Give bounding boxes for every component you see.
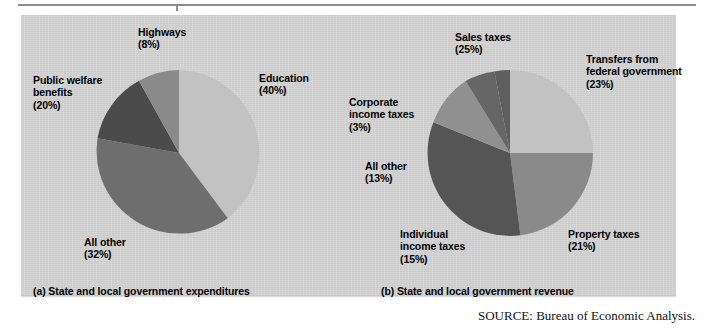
label-property-taxes-pct: (21%) (568, 240, 596, 252)
label-public-welfare-line1: Public welfare (33, 74, 102, 86)
label-transfers-line1: Transfers from (586, 53, 658, 65)
label-all-other-b-pct: (13%) (365, 172, 393, 184)
label-individual-line2: income taxes (400, 240, 465, 252)
label-all-other-b: All other(13%) (365, 160, 407, 185)
label-education: Education(40%) (259, 72, 309, 97)
label-property-taxes-name: Property taxes (568, 228, 640, 240)
label-all-other-b-name: All other (365, 160, 407, 172)
label-individual-income-taxes: Individualincome taxes(15%) (400, 228, 465, 265)
label-education-pct: (40%) (259, 84, 287, 96)
label-highways: Highways(8%) (138, 26, 186, 51)
source-line: SOURCE: Bureau of Economic Analysis. (478, 308, 695, 324)
label-sales-taxes: Sales taxes(25%) (455, 31, 511, 56)
label-all-other-a: All other(32%) (84, 236, 126, 261)
label-transfers-federal: Transfers fromfederal government(23%) (586, 53, 682, 90)
label-corporate-line1: Corporate (349, 96, 398, 108)
label-all-other-a-pct: (32%) (84, 248, 112, 260)
label-highways-pct: (8%) (138, 38, 160, 50)
source-text: Bureau of Economic Analysis. (533, 308, 695, 323)
caption-chart-b: (b) State and local government revenue (381, 285, 574, 297)
figure-root: Highways(8%) Public welfarebenefits(20%)… (0, 0, 711, 332)
label-public-welfare-line2: benefits (33, 86, 72, 98)
label-individual-line1: Individual (400, 228, 448, 240)
label-sales-taxes-name: Sales taxes (455, 31, 511, 43)
top-rule-tick (176, 4, 178, 11)
caption-chart-a: (a) State and local government expenditu… (33, 285, 250, 297)
label-corporate-pct: (3%) (349, 121, 371, 133)
label-education-name: Education (259, 72, 309, 84)
label-corporate-income-taxes: Corporateincome taxes(3%) (349, 96, 414, 133)
label-transfers-line2: federal government (586, 65, 682, 77)
label-transfers-pct: (23%) (586, 78, 614, 90)
label-public-welfare-pct: (20%) (33, 99, 61, 111)
label-highways-name: Highways (138, 26, 186, 38)
source-prefix: SOURCE: (478, 308, 533, 323)
label-sales-taxes-pct: (25%) (455, 43, 483, 55)
label-all-other-a-name: All other (84, 236, 126, 248)
label-corporate-line2: income taxes (349, 108, 414, 120)
label-property-taxes: Property taxes(21%) (568, 228, 640, 253)
top-horizontal-rule (18, 4, 696, 6)
label-individual-pct: (15%) (400, 253, 428, 265)
label-public-welfare-benefits: Public welfarebenefits(20%) (33, 74, 102, 111)
